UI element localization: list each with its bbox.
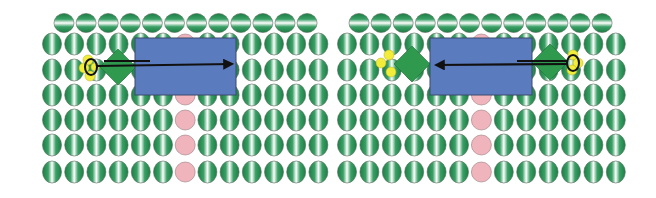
lipid-molecule	[338, 161, 357, 183]
lipid-molecule	[287, 134, 306, 156]
lipid-molecule	[265, 161, 284, 183]
lipid-molecule	[562, 84, 581, 106]
lipid-head-top	[371, 14, 391, 33]
lipid-head-top	[592, 14, 612, 33]
lipid-molecule	[427, 134, 446, 156]
lipid-molecule	[154, 161, 173, 183]
lipid-molecule	[606, 134, 625, 156]
lipid-molecule	[584, 59, 603, 81]
lipid-head-top	[187, 14, 207, 33]
lipid-head-top	[526, 14, 546, 33]
lipid-molecule	[265, 33, 284, 55]
lipid-molecule	[242, 84, 261, 106]
lipid-molecule	[517, 161, 536, 183]
lipid-molecule	[606, 59, 625, 81]
pore-bead	[175, 162, 195, 182]
lipid-head-top	[120, 14, 140, 33]
lipid-molecule	[360, 161, 379, 183]
lipid-molecule	[242, 134, 261, 156]
membrane-transport-diagram	[0, 0, 656, 198]
lipid-molecule	[427, 109, 446, 131]
lipid-head-top	[297, 14, 317, 33]
ligand-dot	[386, 67, 396, 77]
lipid-head-top	[253, 14, 273, 33]
transporter-protein	[430, 38, 532, 95]
lipid-molecule	[584, 109, 603, 131]
lipid-molecule	[360, 33, 379, 55]
ligand-dot	[376, 58, 386, 68]
lipid-molecule	[287, 59, 306, 81]
lipid-head-top	[165, 14, 185, 33]
pore-bead	[471, 135, 491, 155]
lipid-molecule	[338, 134, 357, 156]
lipid-molecule	[65, 84, 84, 106]
lipid-molecule	[606, 161, 625, 183]
transporter-protein	[135, 38, 236, 95]
lipid-molecule	[309, 161, 328, 183]
lipid-molecule	[584, 161, 603, 183]
lipid-molecule	[338, 109, 357, 131]
lipid-molecule	[562, 161, 581, 183]
lipid-molecule	[539, 161, 558, 183]
lipid-head-top	[482, 14, 502, 33]
lipid-molecule	[405, 109, 424, 131]
lipid-head-top	[570, 14, 590, 33]
lipid-molecule	[131, 134, 150, 156]
lipid-molecule	[109, 109, 128, 131]
lipid-molecule	[309, 33, 328, 55]
diagram-canvas	[0, 0, 656, 198]
lipid-molecule	[382, 134, 401, 156]
lipid-molecule	[539, 134, 558, 156]
lipid-molecule	[494, 134, 513, 156]
lipid-molecule	[43, 161, 62, 183]
lipid-molecule	[65, 134, 84, 156]
lipid-molecule	[584, 84, 603, 106]
lipid-head-top	[349, 14, 369, 33]
lipid-molecule	[154, 134, 173, 156]
panel-right	[338, 14, 626, 184]
lipid-molecule	[405, 84, 424, 106]
binding-site-diamond	[100, 49, 136, 85]
lipid-molecule	[309, 109, 328, 131]
direction-arrow-left	[436, 64, 568, 65]
lipid-molecule	[584, 134, 603, 156]
lipid-head-top	[415, 14, 435, 33]
lipid-head-top	[76, 14, 96, 33]
lipid-molecule	[198, 161, 217, 183]
lipid-molecule	[65, 161, 84, 183]
lipid-head-top	[54, 14, 74, 33]
lipid-molecule	[287, 33, 306, 55]
lipid-molecule	[494, 109, 513, 131]
lipid-molecule	[87, 161, 106, 183]
lipid-head-top	[209, 14, 229, 33]
lipid-molecule	[287, 161, 306, 183]
lipid-molecule	[65, 109, 84, 131]
lipid-head-top	[231, 14, 251, 33]
lipid-head-top	[460, 14, 480, 33]
lipid-molecule	[220, 109, 239, 131]
lipid-molecule	[450, 134, 469, 156]
lipid-molecule	[382, 84, 401, 106]
panel-left	[43, 14, 328, 184]
lipid-molecule	[265, 134, 284, 156]
lipid-molecule	[427, 161, 446, 183]
lipid-molecule	[109, 161, 128, 183]
lipid-molecule	[43, 109, 62, 131]
pore-bead	[175, 110, 195, 130]
lipid-molecule	[65, 33, 84, 55]
lipid-molecule	[87, 84, 106, 106]
pore-bead	[471, 162, 491, 182]
lipid-molecule	[606, 109, 625, 131]
lipid-molecule	[450, 109, 469, 131]
lipid-molecule	[450, 161, 469, 183]
lipid-molecule	[43, 84, 62, 106]
lipid-molecule	[242, 161, 261, 183]
lipid-head-top	[142, 14, 162, 33]
lipid-molecule	[405, 134, 424, 156]
lipid-molecule	[198, 134, 217, 156]
lipid-molecule	[109, 84, 128, 106]
lipid-molecule	[517, 134, 536, 156]
lipid-head-top	[275, 14, 295, 33]
lipid-molecule	[539, 84, 558, 106]
lipid-molecule	[405, 161, 424, 183]
